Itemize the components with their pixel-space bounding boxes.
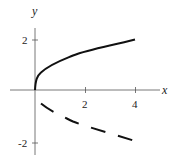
- series-neg-sqrt-dashed: [41, 104, 135, 142]
- x-tick-label-2: 2: [82, 98, 88, 110]
- series-sqrt-solid: [35, 40, 135, 91]
- x-axis-label: x: [161, 83, 168, 97]
- chart: 2 4 2 -2 x y: [0, 0, 173, 160]
- y-tick-label-neg2: -2: [18, 137, 27, 149]
- x-tick-label-4: 4: [132, 98, 138, 110]
- y-tick-label-2: 2: [22, 34, 28, 46]
- y-axis-label: y: [31, 4, 38, 18]
